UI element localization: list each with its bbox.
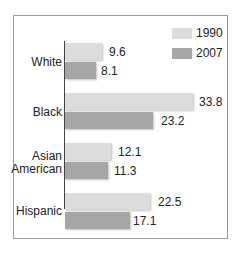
bar-black-1990 [65, 93, 193, 110]
legend-swatch-2007 [172, 48, 192, 59]
bar-white-1990 [65, 43, 102, 60]
category-label-white: White [6, 56, 62, 69]
bar-hispanic-2007 [65, 212, 130, 229]
category-label-hispanic: Hispanic [6, 205, 62, 218]
bar-asian-american-2007 [65, 162, 108, 179]
value-black-1990: 33.8 [199, 95, 222, 109]
legend-label-2007: 2007 [196, 46, 223, 60]
value-hispanic-2007: 17.1 [133, 214, 156, 228]
legend-swatch-1990 [172, 28, 192, 39]
bar-black-2007 [65, 112, 153, 129]
value-hispanic-1990: 22.5 [158, 195, 181, 209]
value-white-1990: 9.6 [109, 45, 126, 59]
bar-asian-american-1990 [65, 143, 111, 160]
value-black-2007: 23.2 [161, 114, 184, 128]
bar-hispanic-1990 [65, 193, 150, 210]
category-label-black: Black [6, 106, 62, 119]
value-asian-american-1990: 12.1 [118, 145, 141, 159]
bar-white-2007 [65, 62, 96, 79]
category-label-american: American [6, 163, 62, 176]
value-asian-american-2007: 11.3 [114, 164, 136, 178]
value-white-2007: 8.1 [101, 64, 118, 78]
legend-label-1990: 1990 [196, 26, 223, 40]
